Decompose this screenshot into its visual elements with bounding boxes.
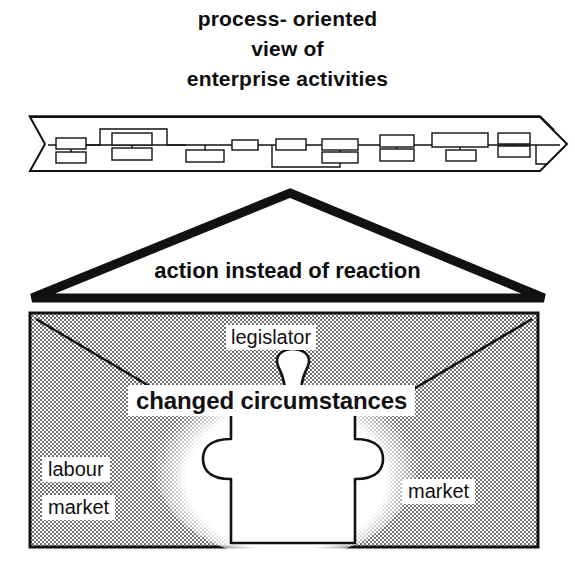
action-triangle [0,186,575,308]
process-flow-banner [0,112,575,184]
action-triangle-svg [0,186,575,308]
process-flow-svg [0,112,575,184]
environment-svg [28,311,540,549]
diagram-canvas: process- oriented view of enterprise act… [0,0,575,571]
title-line-1: process- oriented [0,4,575,34]
triangle-outline [32,193,544,298]
environment-box [28,311,540,549]
page-title: process- oriented view of enterprise act… [0,4,575,94]
title-line-2: view of [0,34,575,64]
title-line-3: enterprise activities [0,64,575,94]
